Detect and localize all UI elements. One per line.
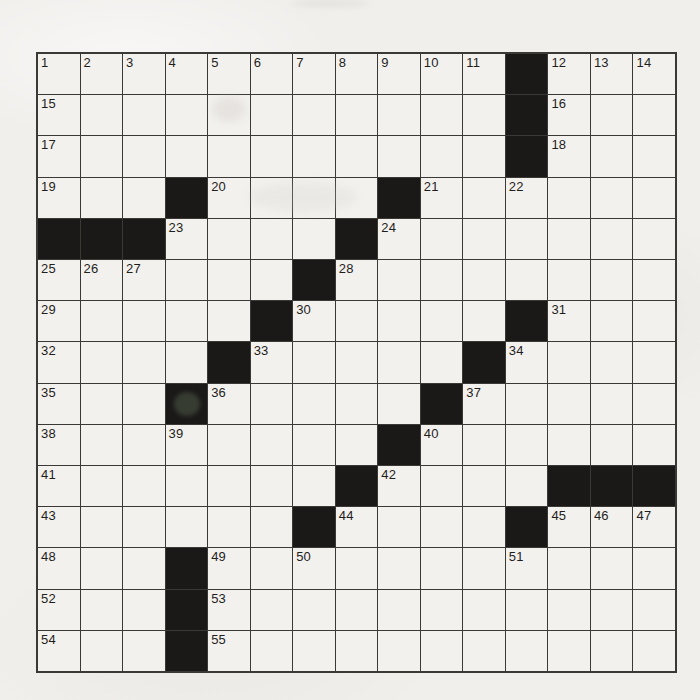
clue-number: 9 — [381, 55, 388, 70]
clue-number: 28 — [339, 261, 354, 276]
white-square — [633, 590, 675, 630]
white-square — [548, 178, 590, 218]
white-square — [421, 136, 463, 176]
scanned-crossword-page: { "puzzle": { "kind": "crossword-grid", … — [0, 0, 700, 700]
white-square — [463, 507, 505, 547]
clue-number: 22 — [509, 179, 524, 194]
white-square — [463, 301, 505, 341]
clue-number: 49 — [211, 549, 226, 564]
white-square — [591, 178, 633, 218]
black-square — [336, 219, 378, 259]
white-square — [336, 342, 378, 382]
clue-number: 5 — [211, 55, 218, 70]
crossword-grid: 1234567891011121314151617181920212223242… — [36, 52, 677, 673]
white-square — [251, 136, 293, 176]
white-square — [336, 425, 378, 465]
white-square — [336, 95, 378, 135]
clue-number: 48 — [41, 549, 56, 564]
white-square — [81, 178, 123, 218]
clue-number: 10 — [424, 55, 439, 70]
white-square — [506, 631, 548, 671]
white-square — [506, 425, 548, 465]
white-square — [506, 384, 548, 424]
white-square — [336, 548, 378, 588]
white-square — [293, 590, 335, 630]
white-square — [506, 219, 548, 259]
white-square — [591, 95, 633, 135]
white-square: 4 — [166, 54, 208, 94]
black-square — [166, 631, 208, 671]
white-square — [123, 425, 165, 465]
black-square — [506, 507, 548, 547]
white-square — [293, 466, 335, 506]
white-square: 30 — [293, 301, 335, 341]
white-square — [166, 260, 208, 300]
white-square — [378, 301, 420, 341]
white-square: 37 — [463, 384, 505, 424]
black-square — [591, 466, 633, 506]
black-square — [336, 466, 378, 506]
white-square — [378, 384, 420, 424]
white-square: 40 — [421, 425, 463, 465]
white-square — [251, 631, 293, 671]
clue-number: 37 — [466, 385, 481, 400]
white-square — [336, 384, 378, 424]
white-square — [378, 342, 420, 382]
white-square: 16 — [548, 95, 590, 135]
white-square: 2 — [81, 54, 123, 94]
white-square — [591, 384, 633, 424]
white-square — [378, 136, 420, 176]
white-square — [378, 507, 420, 547]
white-square: 19 — [38, 178, 80, 218]
clue-number: 32 — [41, 343, 56, 358]
clue-number: 24 — [381, 220, 396, 235]
white-square — [123, 178, 165, 218]
black-square — [208, 342, 250, 382]
clue-number: 34 — [509, 343, 524, 358]
white-square — [463, 219, 505, 259]
black-square — [548, 466, 590, 506]
white-square — [251, 548, 293, 588]
white-square — [463, 178, 505, 218]
white-square — [208, 425, 250, 465]
white-square — [463, 136, 505, 176]
black-square — [633, 466, 675, 506]
white-square — [166, 301, 208, 341]
white-square — [251, 384, 293, 424]
white-square — [378, 631, 420, 671]
white-square — [81, 466, 123, 506]
white-square — [81, 590, 123, 630]
white-square — [81, 95, 123, 135]
clue-number: 20 — [211, 179, 226, 194]
white-square — [463, 590, 505, 630]
white-square — [123, 342, 165, 382]
white-square — [251, 425, 293, 465]
white-square — [633, 178, 675, 218]
clue-number: 52 — [41, 591, 56, 606]
clue-number: 31 — [551, 302, 566, 317]
white-square: 54 — [38, 631, 80, 671]
white-square: 9 — [378, 54, 420, 94]
white-square — [463, 425, 505, 465]
white-square — [548, 342, 590, 382]
white-square — [251, 219, 293, 259]
black-square — [166, 178, 208, 218]
black-square — [166, 548, 208, 588]
white-square — [123, 95, 165, 135]
white-square — [251, 466, 293, 506]
white-square — [591, 342, 633, 382]
white-square — [123, 384, 165, 424]
white-square — [506, 466, 548, 506]
white-square: 7 — [293, 54, 335, 94]
white-square: 22 — [506, 178, 548, 218]
white-square — [591, 425, 633, 465]
white-square — [633, 260, 675, 300]
black-square — [166, 384, 208, 424]
white-square: 15 — [38, 95, 80, 135]
white-square — [463, 548, 505, 588]
white-square — [591, 301, 633, 341]
black-square — [81, 219, 123, 259]
white-square: 49 — [208, 548, 250, 588]
white-square: 12 — [548, 54, 590, 94]
white-square — [378, 590, 420, 630]
